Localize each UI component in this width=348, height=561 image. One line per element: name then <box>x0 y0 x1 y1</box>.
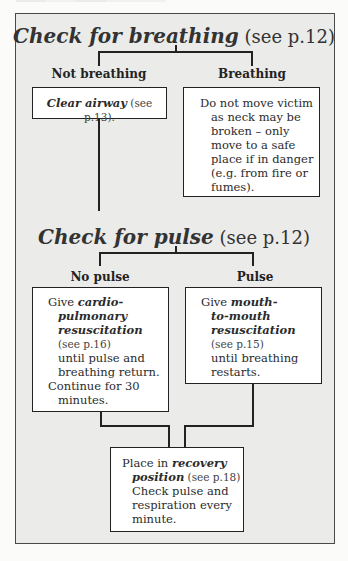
box-lead: Place in <box>122 456 172 470</box>
box-line: minutes. <box>48 393 168 407</box>
connector-airway-drop <box>98 118 100 211</box>
connector-mtm-horizontal <box>184 425 254 427</box>
box-mouth-to-mouth: Give mouth- to-mouth resuscitation (see … <box>185 287 322 384</box>
box-emphasis: cardio- <box>78 295 123 309</box>
box-line: broken – only <box>200 124 319 138</box>
connector-left-drop <box>99 252 101 266</box>
box-line: breathing return. <box>48 365 168 379</box>
box-lead: Give <box>201 295 231 309</box>
connector-horizontal <box>99 252 254 254</box>
connector-right-drop <box>251 51 253 66</box>
box-page-ref: (see p.18) <box>184 471 240 483</box>
connector-mtm-drop <box>252 383 254 427</box>
heading-page-ref: (see p.12) <box>239 26 335 47</box>
box-line: (e.g. from fire or <box>200 166 319 180</box>
box-emphasis: recovery <box>172 456 227 470</box>
connector-cpr-horizontal <box>100 425 170 427</box>
box-do-not-move: Do not move victim as neck may be broken… <box>183 87 320 197</box>
box-emphasis: mouth- <box>231 295 278 309</box>
box-emphasis: position <box>132 470 184 484</box>
box-page-ref: (see p.15) <box>201 337 321 351</box>
box-line: restarts. <box>201 365 321 379</box>
box-recovery-position: Place in recovery position (see p.18) Ch… <box>110 447 244 532</box>
box-line: move to a safe <box>200 138 319 152</box>
box-emphasis: to-mouth <box>201 309 321 323</box>
page: Check for breathing (see p.12) Not breat… <box>0 0 348 561</box>
heading-page-ref: (see p.12) <box>214 227 310 248</box>
box-emphasis: Clear airway <box>47 96 127 110</box>
box-line: Continue for 30 <box>48 379 168 393</box>
heading-emphasis: Check for breathing <box>13 24 239 48</box>
box-line: place if in danger <box>200 152 319 166</box>
heading-emphasis: Check for pulse <box>38 225 214 249</box>
connector-left-drop <box>98 51 100 66</box>
box-emphasis: resuscitation <box>201 323 321 337</box>
box-emphasis: pulmonary <box>48 309 168 323</box>
branch-label-no-pulse: No pulse <box>50 270 150 284</box>
connector-cpr-to-recovery <box>168 425 170 448</box>
box-clear-airway: Clear airway (see p.13). <box>32 87 167 119</box>
cropped-header-text <box>16 0 166 2</box>
box-line: Do not move victim <box>200 96 319 110</box>
box-line: fumes). <box>200 180 319 194</box>
connector-horizontal <box>98 51 253 53</box>
box-cpr: Give cardio- pulmonary resuscitation (se… <box>32 287 169 412</box>
connector-mtm-to-recovery <box>184 425 186 448</box>
branch-label-breathing: Breathing <box>196 67 308 81</box>
branch-label-not-breathing: Not breathing <box>40 67 158 81</box>
box-line: Check pulse and <box>122 484 243 498</box>
box-line: as neck may be <box>200 110 319 124</box>
box-line: respiration every <box>122 498 243 512</box>
heading-check-pulse: Check for pulse (see p.12) <box>0 225 348 250</box>
box-line: until breathing <box>201 351 321 365</box>
box-page-ref: (see p.16) <box>48 337 168 351</box>
heading-check-breathing: Check for breathing (see p.12) <box>0 24 348 49</box>
box-emphasis: resuscitation <box>48 323 168 337</box>
box-line: minute. <box>122 512 243 526</box>
connector-right-drop <box>252 252 254 266</box>
branch-label-pulse: Pulse <box>210 270 300 284</box>
box-lead: Give <box>48 295 78 309</box>
box-line: until pulse and <box>48 351 168 365</box>
